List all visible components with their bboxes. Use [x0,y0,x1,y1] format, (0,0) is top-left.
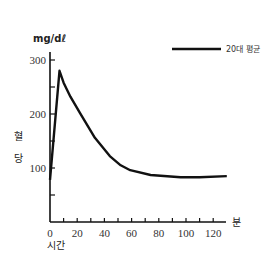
y-tick-label: 100 [30,162,47,174]
x-unit-label: 분 [232,217,241,228]
x-tick-label: 100 [178,227,195,239]
legend-label: 20대 평균 [226,44,260,54]
legend: 20대 평균 [172,44,260,54]
glucose-chart: 100200300 020406080100120 mg/dℓ 혈 당 시간 분… [0,0,279,266]
y-axis-label-bottom: 당 [14,153,23,164]
x-tick-label: 80 [153,227,165,239]
x-tick-label: 20 [72,227,84,239]
axes [50,52,226,222]
x-axis-label: 시간 [47,240,65,251]
y-axis-label-top: 혈 [14,130,23,142]
x-ticks: 020406080100120 [47,218,222,239]
x-tick-label: 40 [99,227,111,239]
x-tick-label: 120 [205,227,222,239]
x-tick-label: 60 [126,227,138,239]
series-line-20s-average [50,71,227,180]
y-unit-label: mg/dℓ [33,33,66,44]
x-tick-label: 0 [47,227,53,239]
y-tick-label: 200 [30,108,47,120]
y-tick-label: 300 [30,54,47,66]
